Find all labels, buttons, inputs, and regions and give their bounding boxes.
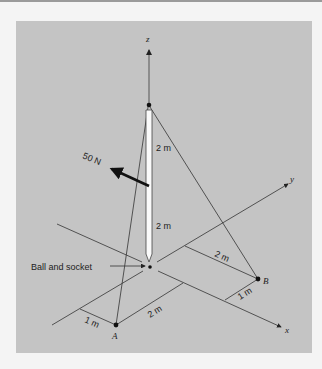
z-axis: z (145, 34, 150, 104)
negative-x-axis (57, 224, 142, 262)
dim-label-B-y: 2 m (213, 249, 231, 264)
point-A-label: A (111, 331, 118, 341)
force-label: 50 N (81, 151, 102, 167)
cable-to-B (150, 107, 258, 279)
pole-lower-length-label: 2 m (156, 221, 171, 231)
y-axis: y (157, 174, 294, 262)
point-B-label: B (263, 276, 269, 286)
pole (146, 103, 152, 262)
z-axis-label: z (145, 34, 150, 44)
statics-diagram: z y x 50 N 2 m 2 m Ball and socket (0, 0, 322, 369)
pole-upper-length-label: 2 m (156, 143, 171, 153)
ball-and-socket-label: Ball and socket (31, 262, 93, 272)
dim-label-A-x: 2 m (146, 303, 164, 319)
point-B: B (256, 276, 269, 286)
point-A: A (111, 323, 118, 341)
cable-to-A (116, 107, 148, 325)
dim-label-B-x: 1 m (236, 285, 254, 301)
x-axis: x (158, 271, 289, 335)
x-axis-label: x (284, 325, 289, 335)
y-axis-label: y (289, 174, 294, 184)
ball-and-socket: Ball and socket (31, 262, 152, 272)
